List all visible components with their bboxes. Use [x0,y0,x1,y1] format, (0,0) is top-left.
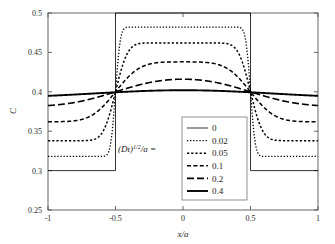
diffusion-concentration-chart: 0.250.30.350.40.450.5 -1-0.500.51 C x/a … [0,0,335,244]
x-tick-label: -1 [45,214,52,223]
chart-canvas: 0.250.30.350.40.450.5 -1-0.500.51 C x/a … [0,0,335,244]
legend-label-0-4: 0.4 [212,186,224,196]
legend-label-0-05: 0.05 [212,148,228,158]
x-tick-label: 0.5 [246,214,256,223]
legend-label-0-02: 0.02 [212,136,228,146]
legend-label-0-2: 0.2 [212,174,223,184]
x-tick-label: 1 [316,214,320,223]
x-axis-label: x/a [177,229,189,239]
legend-label-0-1: 0.1 [212,161,223,171]
legend[interactable]: 00.020.050.10.20.4 [182,117,247,200]
x-tick-label: -0.5 [109,214,122,223]
y-tick-label: 0.5 [32,9,42,18]
y-tick-label: 0.4 [32,88,42,97]
legend-label-0: 0 [212,123,217,133]
y-tick-label: 0.25 [28,206,42,215]
y-axis-label: C [8,107,18,114]
y-tick-label: 0.35 [28,127,42,136]
x-tick-label: 0 [181,214,185,223]
y-tick-label: 0.45 [28,48,42,57]
y-tick-label: 0.3 [32,167,42,176]
